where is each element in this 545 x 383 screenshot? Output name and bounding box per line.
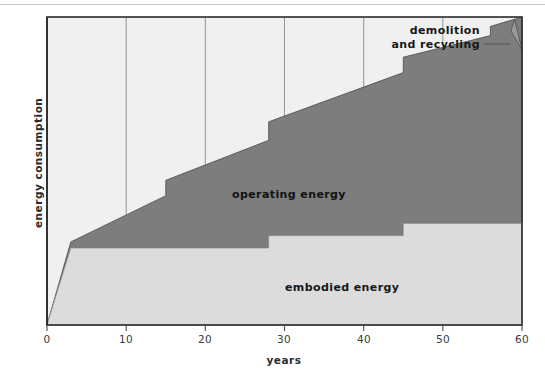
x-axis bbox=[47, 325, 522, 331]
x-tick-label-50: 50 bbox=[423, 333, 463, 345]
x-tick-label-60: 60 bbox=[502, 333, 542, 345]
x-tick-label-30: 30 bbox=[264, 333, 304, 345]
series-label-embodied-energy: embodied energy bbox=[285, 281, 399, 294]
annotation-line-1: demolition bbox=[340, 24, 480, 38]
chart-stage: 0 10 20 30 40 50 60 years energy consump… bbox=[0, 0, 545, 383]
series-label-operating-energy: operating energy bbox=[232, 188, 346, 201]
x-tick-label-0: 0 bbox=[27, 333, 67, 345]
annotation-line-2: and recycling bbox=[340, 38, 480, 52]
chart-figure: 0 10 20 30 40 50 60 years energy consump… bbox=[0, 0, 545, 383]
x-tick-label-40: 40 bbox=[344, 333, 384, 345]
y-axis-title: energy consumption bbox=[32, 98, 44, 228]
x-tick-label-10: 10 bbox=[106, 333, 146, 345]
annotation-demolition-and-recycling: demolition and recycling bbox=[340, 24, 480, 52]
x-axis-title: years bbox=[224, 354, 344, 366]
x-tick-label-20: 20 bbox=[185, 333, 225, 345]
